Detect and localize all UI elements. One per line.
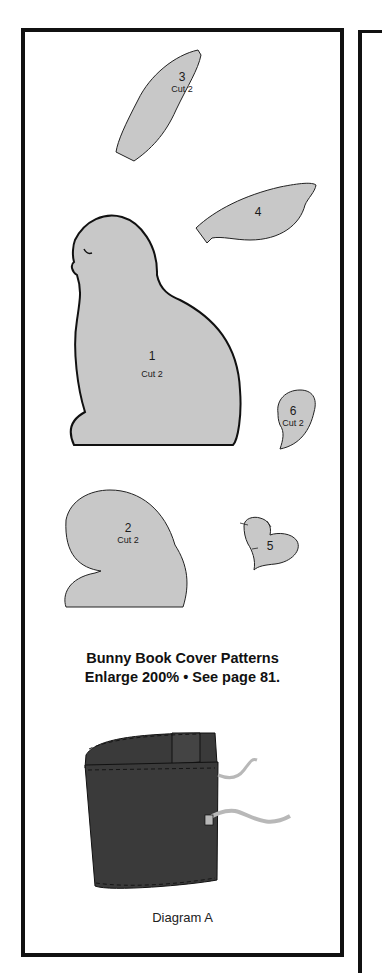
piece-instruction: Cut 2 — [132, 369, 172, 379]
diagram-caption: Diagram A — [21, 910, 344, 925]
pattern-title: Bunny Book Cover Patterns — [21, 649, 344, 668]
piece-number: 3 — [162, 70, 202, 84]
piece-number: 5 — [260, 539, 280, 553]
piece-number: 2 — [108, 521, 148, 535]
pattern-enlarge-note: Enlarge 200% • See page 81. — [21, 668, 344, 687]
piece-number: 6 — [273, 404, 313, 418]
piece-3-label: 3 Cut 2 — [162, 70, 202, 94]
piece-instruction: Cut 2 — [162, 84, 202, 94]
piece-4-label: 4 — [243, 205, 273, 219]
diagram-a-book-cover — [85, 733, 290, 888]
piece-6-label: 6 Cut 2 — [273, 404, 313, 428]
piece-2-label: 2 Cut 2 — [108, 521, 148, 545]
piece-number: 4 — [243, 205, 273, 219]
piece-instruction: Cut 2 — [273, 418, 313, 428]
piece-instruction: Cut 2 — [108, 535, 148, 545]
pattern-piece-3-shape — [116, 50, 201, 161]
piece-number: 1 — [132, 349, 172, 363]
pattern-piece-1-shape — [71, 216, 241, 445]
piece-1-label: 1 Cut 2 — [132, 349, 172, 379]
pattern-piece-2-shape — [65, 490, 187, 607]
piece-5-label: 5 — [260, 539, 280, 553]
